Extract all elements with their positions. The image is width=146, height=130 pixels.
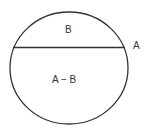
label-a-minus-b: A − B <box>52 75 76 85</box>
label-a: A <box>133 41 140 51</box>
circle-diagram <box>0 0 146 130</box>
label-b: B <box>65 25 72 35</box>
